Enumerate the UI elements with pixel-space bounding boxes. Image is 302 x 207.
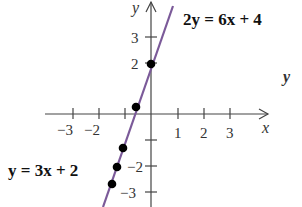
x-tick-label: −2 bbox=[84, 122, 100, 138]
equation-top: 2y = 6x + 4 bbox=[183, 10, 262, 29]
x-tick-label: 1 bbox=[174, 125, 182, 141]
equation-bottom: y = 3x + 2 bbox=[8, 161, 78, 180]
y-tick-label: 3 bbox=[131, 30, 139, 46]
x-tick-label: −3 bbox=[57, 122, 73, 138]
graph: −3 −2 1 2 3 x 3 2 −2 −3 y 2y = 6x + 4 y … bbox=[0, 0, 302, 207]
y-axis-label: y bbox=[130, 0, 140, 17]
x-tick-label: 3 bbox=[226, 125, 234, 141]
x-axis-label: x bbox=[261, 119, 269, 136]
y-tick-label: 2 bbox=[131, 56, 139, 72]
x-tick-label: 2 bbox=[200, 125, 208, 141]
stray-y-label: y bbox=[281, 68, 291, 86]
y-tick-label: −2 bbox=[127, 159, 143, 175]
y-tick-label: −3 bbox=[120, 185, 136, 201]
